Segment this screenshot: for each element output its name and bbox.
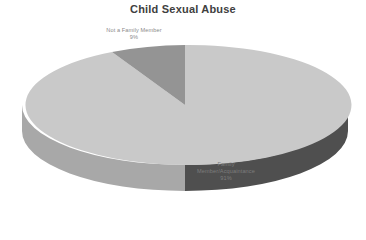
slice-label-not-a-family-member-name: Not a Family Member (74, 27, 194, 34)
slice-label-not-a-family-member: Not a Family Member 9% (74, 27, 194, 41)
slice-label-family-member-acquaintance: Family Member/Acquaintance 91% (166, 161, 286, 183)
pie-slice-family-member-acquaintance[interactable] (25, 45, 351, 165)
slice-label-family-member-acquaintance-name-line1: Family (166, 161, 286, 168)
slice-label-family-member-acquaintance-percent: 91% (166, 175, 286, 182)
slice-label-not-a-family-member-percent: 9% (74, 34, 194, 41)
slice-label-family-member-acquaintance-name-line2: Member/Acquaintance (166, 168, 286, 175)
pie-chart: Child Sexual Abuse Not a Family Member 9… (0, 0, 366, 240)
